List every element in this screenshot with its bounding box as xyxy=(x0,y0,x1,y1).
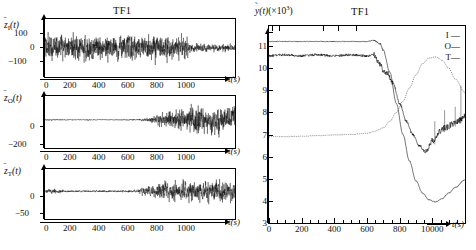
panel3-ylabel-arg: (t) xyxy=(12,166,21,176)
panel1-xlabel: t(s) xyxy=(228,75,240,84)
right-xtick-800: 800 xyxy=(393,225,407,234)
panel2-xtick-0: 0 xyxy=(44,153,49,162)
right-toptickmark xyxy=(356,26,357,31)
right-xtickmark-650 xyxy=(375,220,376,223)
legend-item-O: O— xyxy=(445,41,460,52)
panel2-ylabel: ̄ zO(t) xyxy=(4,93,22,105)
curve-T xyxy=(269,57,465,137)
panel3-xtick-600: 600 xyxy=(121,224,135,233)
panel2-xtick-200: 200 xyxy=(63,153,77,162)
legend-swatch-I: — xyxy=(451,30,459,40)
right-xtickmark-900 xyxy=(416,220,417,223)
right-xtickmark-1200 xyxy=(465,218,466,223)
right-xtickmark-700 xyxy=(383,220,384,223)
right-xtickmark-250 xyxy=(310,220,311,223)
curve-I xyxy=(269,52,465,153)
right-toptickmark xyxy=(323,26,324,31)
panel2-x-arrowline xyxy=(208,151,226,152)
panel1-ytick-neg100: −100 xyxy=(8,57,27,66)
right-xtickmark-1000 xyxy=(432,218,433,223)
right-xtickmark-450 xyxy=(343,220,344,223)
panel2-xlabel: t(s) xyxy=(228,147,240,156)
right-xtick-200: 200 xyxy=(295,225,309,234)
right-ytick-6: 6 xyxy=(263,152,268,161)
right-xtickmark-300 xyxy=(318,220,319,223)
right-ytick-11: 11 xyxy=(258,41,267,50)
right-xlabel: t(s) xyxy=(452,220,464,229)
right-curves xyxy=(269,26,465,223)
right-xtickmark-550 xyxy=(359,220,360,223)
right-ytick-4: 4 xyxy=(263,196,268,205)
panel-z-I xyxy=(44,18,236,78)
panel3-xtick-400: 400 xyxy=(92,224,106,233)
panel1-xtick-800: 800 xyxy=(150,81,164,90)
right-x-arrowhead xyxy=(446,221,451,227)
panel-z-T xyxy=(44,168,236,220)
panel2-ytick-0: 0 xyxy=(30,122,35,131)
right-panel-title: TF1 xyxy=(351,6,369,17)
right-ytickmark-5 xyxy=(269,179,273,180)
right-xtickmark-50 xyxy=(277,220,278,223)
panel2-xtick-600: 600 xyxy=(121,153,135,162)
legend-item-T: T— xyxy=(445,52,460,63)
right-ytickmark-4 xyxy=(269,201,273,202)
figure-root: TF1 ̄ zI(t) 100 0 −100 t(s) 0 200 400 60… xyxy=(0,0,476,250)
curve-O xyxy=(269,40,465,202)
right-xtickmark-800 xyxy=(400,218,401,223)
right-xtickmark-400 xyxy=(334,218,335,223)
right-ytick-9: 9 xyxy=(263,86,268,95)
right-ytickmark-9 xyxy=(269,90,273,91)
panel-z-O xyxy=(44,95,236,149)
right-x-arrowline xyxy=(427,224,447,225)
panel2-xtick-1000: 1000 xyxy=(177,153,195,162)
legend-swatch-O: — xyxy=(451,41,459,51)
right-xtickmark-850 xyxy=(408,220,409,223)
left-panel-group: TF1 ̄ zI(t) 100 0 −100 t(s) 0 200 400 60… xyxy=(0,0,252,250)
panel1-xtick-1000: 1000 xyxy=(177,81,195,90)
right-ytickmark-8 xyxy=(269,112,273,113)
right-xtickmark-200 xyxy=(302,218,303,223)
legend-swatch-T: — xyxy=(451,52,459,62)
panel1-xtick-400: 400 xyxy=(92,81,106,90)
panel3-xtick-1000: 1000 xyxy=(177,224,195,233)
panel3-xlabel: t(s) xyxy=(228,218,240,227)
panel3-ylabel: ̄ zT(t) xyxy=(4,166,21,178)
right-plot-area: I — O— T— 11109876543020040060080010000 xyxy=(268,25,466,224)
right-xtickmark-950 xyxy=(424,220,425,223)
right-xtick-400: 400 xyxy=(328,225,342,234)
right-xtickmark-350 xyxy=(326,220,327,223)
panel2-xtick-800: 800 xyxy=(150,153,164,162)
right-ytick-7: 7 xyxy=(263,130,268,139)
right-xtickmark-1050 xyxy=(441,220,442,223)
panel1-ytick-0: 0 xyxy=(30,43,35,52)
panel2-xtick-400: 400 xyxy=(92,153,106,162)
left-group-title: TF1 xyxy=(113,5,131,16)
right-toptickmark xyxy=(272,26,273,31)
right-ylabel: ̃ y(t)(×103) xyxy=(255,4,293,16)
panel3-trace xyxy=(45,169,235,219)
panel3-ylabel-symbol: z xyxy=(4,166,8,176)
right-ytick-5: 5 xyxy=(263,174,268,183)
panel1-xtick-600: 600 xyxy=(121,81,135,90)
right-xtickmark-500 xyxy=(351,220,352,223)
panel1-trace xyxy=(45,19,235,77)
legend-label-I: I xyxy=(446,30,449,40)
right-xtickmark-0 xyxy=(269,218,270,223)
right-ytick-10: 10 xyxy=(258,64,267,73)
right-toptickmark xyxy=(279,26,280,31)
right-panel-group: ̃ y(t)(×103) TF1 I — O— T— 1110987654302… xyxy=(255,0,476,250)
panel1-x-arrowline xyxy=(208,79,226,80)
panel1-xtick-200: 200 xyxy=(63,81,77,90)
panel1-xtick-0: 0 xyxy=(44,81,49,90)
panel3-xtick-800: 800 xyxy=(150,224,164,233)
right-ytickmark-10 xyxy=(269,68,273,69)
right-toptickmark xyxy=(338,26,339,31)
panel2-trace xyxy=(45,96,235,148)
right-xtickmark-100 xyxy=(285,220,286,223)
right-xtickmark-600 xyxy=(367,218,368,223)
right-xtick-600: 600 xyxy=(360,225,374,234)
right-xtickmark-150 xyxy=(294,220,295,223)
right-xtickmark-750 xyxy=(392,220,393,223)
panel3-xtick-200: 200 xyxy=(63,224,77,233)
panel1-ytick-100: 100 xyxy=(14,29,28,38)
